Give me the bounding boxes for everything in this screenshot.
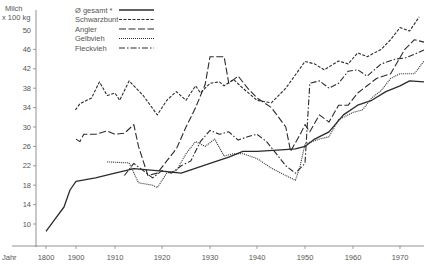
y-tick-label: 26 (23, 142, 31, 151)
y-tick-label: 42 (23, 64, 31, 73)
x-tick-label: 1930 (202, 253, 219, 262)
series-line-angler (76, 40, 424, 176)
y-axis-label: x 100 kg (2, 13, 30, 22)
series-line-gelbvieh (107, 61, 424, 188)
y-tick-label: 10 (23, 220, 31, 229)
x-tick-label: 1910 (107, 253, 124, 262)
legend-item: Angler (75, 25, 154, 34)
legend-label: Fleckvieh (75, 44, 107, 53)
legend-label: Gelbvieh (75, 34, 105, 43)
y-tick-label: 30 (23, 123, 31, 132)
y-tick-label: 18 (23, 181, 31, 190)
y-tick-label: 14 (23, 200, 31, 209)
y-tick-label: 34 (23, 103, 31, 112)
y-tick-label: 46 (23, 45, 31, 54)
y-tick-label: 22 (23, 161, 31, 170)
y-tick-label: 50 (23, 26, 31, 35)
x-tick-label: 1920 (154, 253, 171, 262)
legend-item: Schwarzbunt (75, 15, 154, 24)
x-tick-label: 1960 (345, 253, 362, 262)
legend-item: Gelbvieh (75, 34, 154, 43)
x-tick-label: 1900 (68, 253, 85, 262)
y-axis-label: Milch (5, 4, 23, 13)
y-tick-label: 38 (23, 84, 31, 93)
x-axis-label: Jahr (2, 253, 17, 262)
x-tick-label: 1950 (297, 253, 314, 262)
legend: Ø gesamt *SchwarzbuntAnglerGelbviehFleck… (75, 6, 154, 53)
milk-yield-chart: Milchx 100 kg1014182226303438424650Jahr1… (0, 0, 431, 265)
legend-label: Ø gesamt * (75, 6, 113, 15)
x-tick-label: 1800 (38, 253, 55, 262)
x-tick-label: 1970 (392, 253, 409, 262)
legend-item: Fleckvieh (75, 44, 154, 53)
x-tick-label: 1940 (249, 253, 266, 262)
legend-item: Ø gesamt * (75, 6, 154, 15)
series-line-fleckvieh (124, 50, 424, 178)
axes: Milchx 100 kg1014182226303438424650Jahr1… (2, 4, 424, 262)
series-line-schwarzbunt (75, 17, 419, 115)
legend-label: Angler (75, 25, 97, 34)
legend-label: Schwarzbunt (75, 15, 119, 24)
